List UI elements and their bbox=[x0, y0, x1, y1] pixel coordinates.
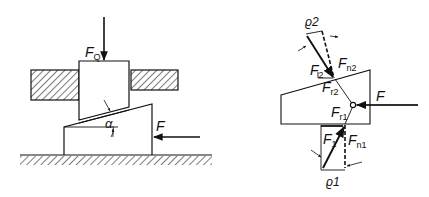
left-guide bbox=[31, 70, 79, 100]
rho1-label: ϱ1 bbox=[326, 175, 340, 189]
rho2-label: ϱ2 bbox=[305, 15, 319, 29]
wedge-diagram-svg: FQ α F ϱ2 F2 Fn2 Fr2 Fr1 F1 Fn1 ϱ1 F bbox=[0, 0, 429, 197]
angle-label: α bbox=[105, 116, 113, 131]
right-guide bbox=[131, 70, 178, 90]
slider-block bbox=[79, 61, 129, 120]
force-intersection-point bbox=[350, 102, 355, 107]
right-drive-force-label: F bbox=[376, 88, 386, 104]
load-force-label: FQ bbox=[85, 44, 101, 62]
wedge-mechanism bbox=[20, 17, 212, 165]
free-body-diagram bbox=[281, 31, 418, 170]
diagram-canvas: FQ α F ϱ2 F2 Fn2 Fr2 Fr1 F1 Fn1 ϱ1 F bbox=[0, 0, 429, 197]
Fn1-label: Fn1 bbox=[348, 132, 367, 150]
F2-label: F2 bbox=[310, 62, 324, 80]
Fn2-label: Fn2 bbox=[338, 55, 357, 73]
F1-label: F1 bbox=[323, 131, 337, 149]
drive-force-label: F bbox=[156, 118, 166, 134]
ground bbox=[20, 156, 212, 165]
